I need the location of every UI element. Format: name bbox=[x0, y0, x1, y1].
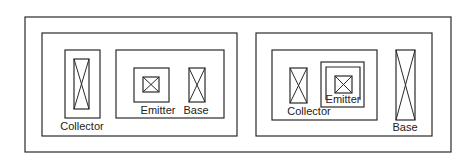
right-emitter: Emitter bbox=[321, 62, 364, 107]
left-emitter-label: Emitter bbox=[141, 104, 176, 116]
right-base-contact-icon bbox=[396, 50, 415, 120]
left-collector-contact-icon bbox=[74, 59, 89, 109]
left-collector: Collector bbox=[60, 50, 104, 132]
left-emitter-contact-icon bbox=[143, 77, 159, 92]
left-emitter: Emitter bbox=[134, 68, 176, 116]
left-collector-label: Collector bbox=[60, 120, 104, 132]
right-layout: Collector Emitter Base bbox=[256, 33, 432, 136]
left-layout: Collector Emitter Base bbox=[42, 33, 237, 136]
right-collector-contact-icon bbox=[290, 68, 307, 103]
right-collector: Collector bbox=[287, 68, 331, 117]
left-base: Base bbox=[183, 68, 208, 116]
right-base-label: Base bbox=[392, 121, 417, 133]
right-emitter-label: Emitter bbox=[326, 93, 361, 105]
left-base-label: Base bbox=[183, 104, 208, 116]
transistor-layout-diagram: Collector Emitter Base bbox=[0, 0, 473, 160]
left-base-contact-icon bbox=[189, 68, 205, 102]
right-base: Base bbox=[392, 50, 417, 133]
left-collector-region bbox=[65, 50, 100, 118]
right-emitter-contact-icon bbox=[335, 76, 352, 93]
